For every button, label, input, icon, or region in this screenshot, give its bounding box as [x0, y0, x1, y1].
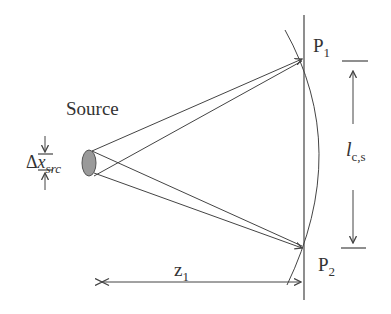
coherence-diagram: Source Δxsrc P1 P2 lc,s z1 — [0, 0, 391, 314]
wavefront-arc — [285, 30, 319, 285]
p1-label: P1 — [313, 35, 330, 60]
ray-top-p2 — [92, 151, 302, 246]
source-ellipse — [82, 150, 96, 176]
source-label: Source — [66, 98, 119, 119]
p2-label: P2 — [318, 254, 335, 279]
z1-label: z1 — [174, 259, 189, 284]
coherence-length-label: lc,s — [346, 138, 366, 164]
ray-bottom-p2 — [94, 173, 302, 248]
ray-bottom-p1 — [94, 61, 302, 176]
delta-x-src-label: Δxsrc — [26, 152, 61, 176]
ray-top-p1 — [92, 59, 302, 151]
